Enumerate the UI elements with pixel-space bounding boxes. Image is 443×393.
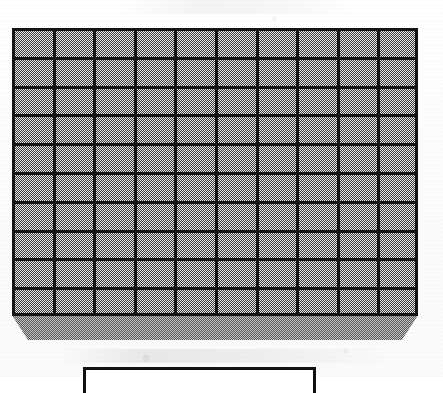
grid-line-horizontal [12,143,418,146]
grid-line-horizontal [12,172,418,175]
grid-line-horizontal [12,258,418,261]
caption-frame [83,367,316,393]
grid-line-horizontal [12,287,418,290]
grid-line-horizontal [12,57,418,60]
grid-line-horizontal [12,201,418,204]
panel-grid-face [12,28,418,316]
grid-line-layer [12,28,418,316]
top-scan-smudge [120,0,350,14]
grid-line-horizontal [12,114,418,117]
grid-line-horizontal [12,230,418,233]
grid-line-horizontal [12,86,418,89]
bottom-scan-smudge [60,349,390,363]
